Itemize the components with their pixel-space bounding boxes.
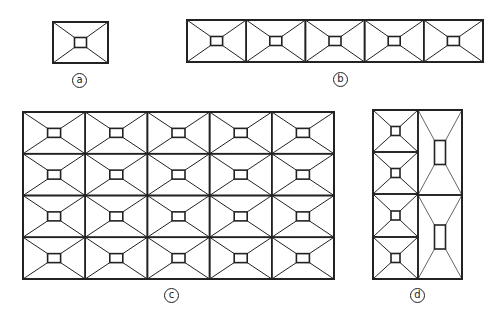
hip-line: [185, 137, 210, 153]
skylight-opening: [435, 141, 446, 165]
hip-line: [23, 221, 48, 237]
hip-line: [373, 194, 391, 211]
hip-line: [400, 46, 424, 63]
hip-line: [272, 179, 297, 195]
hip-line: [210, 221, 235, 237]
hip-line: [282, 20, 306, 37]
hip-line: [373, 110, 391, 127]
hip-line: [309, 237, 334, 253]
panel-b-drawing: [187, 20, 483, 62]
panel-c-drawing: [23, 112, 334, 279]
hip-line: [247, 112, 272, 128]
hip-line: [373, 237, 391, 254]
hip-line: [87, 48, 109, 64]
hip-line: [400, 237, 418, 254]
hip-line: [187, 20, 211, 37]
hip-line: [272, 196, 297, 212]
hip-line: [61, 263, 86, 279]
skylight-opening: [296, 170, 309, 179]
hip-line: [309, 263, 334, 279]
skylight-opening: [110, 128, 123, 137]
hip-line: [123, 196, 148, 212]
skylight-opening: [234, 128, 247, 137]
hip-line: [61, 179, 86, 195]
hip-line: [272, 263, 297, 279]
hip-line: [341, 20, 365, 37]
hip-line: [85, 237, 110, 253]
skylight-opening: [48, 128, 61, 137]
skylight-opening: [391, 254, 400, 263]
skylight-opening: [172, 212, 185, 221]
hip-line: [247, 137, 272, 153]
hip-line: [123, 237, 148, 253]
hip-line: [147, 179, 172, 195]
hip-line: [23, 196, 48, 212]
panel-label-a: a: [72, 73, 87, 88]
hip-line: [365, 46, 389, 63]
panel-label-c: c: [164, 288, 179, 303]
skylight-opening: [270, 37, 282, 46]
skylight-opening: [391, 211, 400, 220]
hip-line: [185, 221, 210, 237]
hip-line: [373, 136, 391, 153]
skylight-opening: [110, 170, 123, 179]
hip-line: [305, 46, 329, 63]
hip-line: [400, 110, 418, 127]
hip-line: [446, 249, 463, 279]
hip-line: [123, 112, 148, 128]
skylight-opening: [388, 37, 400, 46]
skylight-opening: [110, 212, 123, 221]
hip-line: [147, 263, 172, 279]
skylight-opening: [48, 254, 61, 263]
skylight-opening: [296, 128, 309, 137]
hip-line: [400, 20, 424, 37]
hip-line: [61, 137, 86, 153]
figure-canvas: [0, 0, 496, 323]
hip-line: [282, 46, 306, 63]
hip-line: [373, 220, 391, 237]
hip-line: [123, 263, 148, 279]
hip-line: [418, 195, 435, 225]
hip-line: [147, 112, 172, 128]
hip-line: [23, 137, 48, 153]
hip-line: [373, 263, 391, 280]
skylight-opening: [435, 225, 446, 249]
hip-line: [418, 110, 435, 141]
skylight-opening: [75, 38, 87, 48]
hip-line: [400, 263, 418, 280]
hip-line: [400, 194, 418, 211]
hip-line: [23, 154, 48, 170]
hip-line: [459, 20, 483, 37]
hip-line: [87, 22, 109, 38]
skylight-opening: [211, 37, 223, 46]
hip-line: [272, 237, 297, 253]
hip-line: [210, 179, 235, 195]
hip-line: [23, 179, 48, 195]
hip-line: [123, 179, 148, 195]
hip-line: [247, 154, 272, 170]
hip-line: [247, 237, 272, 253]
skylight-opening: [296, 212, 309, 221]
hip-line: [309, 179, 334, 195]
hip-line: [309, 154, 334, 170]
hip-line: [85, 221, 110, 237]
skylight-opening: [172, 254, 185, 263]
panel-label-d: d: [410, 288, 425, 303]
hip-line: [185, 112, 210, 128]
hip-line: [85, 196, 110, 212]
hip-line: [210, 237, 235, 253]
hip-line: [185, 263, 210, 279]
hip-line: [247, 263, 272, 279]
hip-line: [272, 221, 297, 237]
hip-line: [309, 196, 334, 212]
hip-line: [210, 196, 235, 212]
hip-line: [185, 237, 210, 253]
skylight-opening: [172, 128, 185, 137]
hip-line: [61, 237, 86, 253]
hip-line: [147, 196, 172, 212]
skylight-opening: [391, 127, 400, 136]
hip-line: [446, 195, 463, 225]
hip-line: [272, 112, 297, 128]
skylight-opening: [48, 212, 61, 221]
hip-line: [85, 263, 110, 279]
